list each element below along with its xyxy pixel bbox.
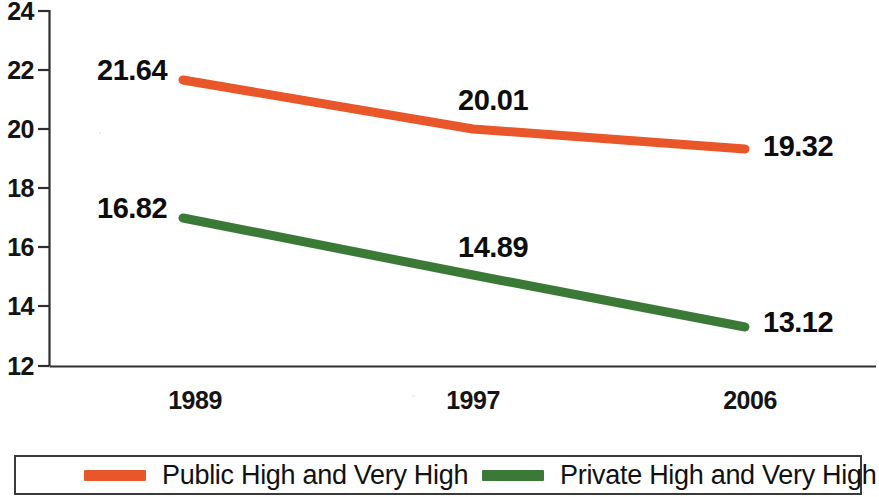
legend-label-private: Private High and Very High (560, 460, 876, 491)
data-label-public-1997: 20.01 (458, 84, 528, 117)
legend-swatch-public-icon (84, 470, 146, 481)
x-tick-label-1997: 1997 (413, 386, 533, 415)
legend-item-public[interactable]: Public High and Very High (84, 457, 468, 493)
data-label-public-1989: 21.64 (97, 54, 167, 87)
legend-item-private[interactable]: Private High and Very High (482, 457, 876, 493)
x-tick-label-2006: 2006 (690, 386, 810, 415)
chart-legend: Public High and Very High Private High a… (14, 455, 862, 495)
data-label-public-2006: 19.32 (763, 130, 833, 163)
data-label-private-1997: 14.89 (458, 231, 528, 264)
legend-label-public: Public High and Very High (162, 460, 468, 491)
line-chart: 24 22 20 18 16 14 12 1989 1997 2006 21.6… (0, 0, 879, 497)
x-tick-label-1989: 1989 (135, 386, 255, 415)
y-tick-label-24: 24 (0, 0, 34, 26)
y-tick-label-18: 18 (0, 174, 34, 203)
y-tick-label-22: 22 (0, 56, 34, 85)
y-tick-label-14: 14 (0, 292, 34, 321)
legend-swatch-private-icon (482, 470, 544, 481)
y-tick-label-16: 16 (0, 233, 34, 262)
y-tick-label-20: 20 (0, 115, 34, 144)
y-tick-label-12: 12 (0, 352, 34, 381)
y-axis-ticks (38, 11, 49, 366)
data-label-private-1989: 16.82 (97, 192, 167, 225)
data-label-private-2006: 13.12 (763, 306, 833, 339)
